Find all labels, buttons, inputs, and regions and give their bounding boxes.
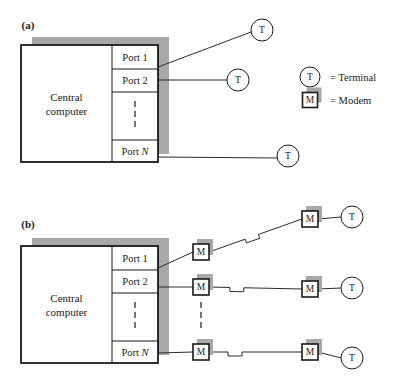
terminal-node: T bbox=[251, 19, 273, 41]
legend-item-label: = Modem bbox=[330, 95, 371, 106]
modem-glyph: M bbox=[197, 247, 206, 257]
panel-label-a: (a) bbox=[22, 19, 35, 32]
port-label: Port 2 bbox=[122, 75, 147, 86]
port-label: Port 2 bbox=[122, 276, 147, 287]
modem-glyph: M bbox=[306, 214, 315, 224]
modem-glyph: M bbox=[306, 347, 315, 357]
panel-label-b: (b) bbox=[21, 218, 35, 231]
terminal-glyph: T bbox=[285, 151, 291, 161]
computer-title-line2: computer bbox=[46, 105, 88, 117]
port-label: Port 1 bbox=[122, 52, 147, 63]
computer-title-line2: computer bbox=[46, 306, 88, 318]
legend-terminal-symbol: T bbox=[300, 67, 320, 87]
terminal-node: T bbox=[341, 206, 363, 228]
terminal-glyph: T bbox=[259, 25, 265, 35]
port-slot: Port 1 bbox=[122, 253, 147, 264]
computer-title-line1: Central bbox=[50, 91, 82, 103]
computer-title-line1: Central bbox=[50, 292, 82, 304]
modem-glyph: M bbox=[306, 284, 315, 294]
terminal-glyph: T bbox=[349, 212, 355, 222]
terminal-node: T bbox=[341, 277, 363, 299]
terminal-glyph: T bbox=[349, 283, 355, 293]
network-topology-figure: (a)CentralcomputerPort 1Port 2Port NTTT(… bbox=[0, 0, 409, 380]
terminal-glyph: T bbox=[349, 353, 355, 363]
terminal-node: T bbox=[227, 69, 249, 91]
terminal-glyph: T bbox=[307, 72, 313, 82]
terminal-node: T bbox=[341, 347, 363, 369]
modem-glyph: M bbox=[306, 95, 315, 105]
port-label: Port N bbox=[121, 146, 149, 157]
modem-glyph: M bbox=[197, 282, 206, 292]
terminal-glyph: T bbox=[235, 75, 241, 85]
terminal-node: T bbox=[277, 145, 299, 167]
legend-item-label: = Terminal bbox=[330, 72, 376, 83]
central-computer-unit-b: CentralcomputerPort 1Port 2Port N bbox=[21, 238, 169, 363]
port-label: Port 1 bbox=[122, 253, 147, 264]
central-computer-unit-a: CentralcomputerPort 1Port 2Port N bbox=[21, 37, 169, 162]
modem-glyph: M bbox=[197, 347, 206, 357]
port-slot: Port 1 bbox=[122, 52, 147, 63]
port-label: Port N bbox=[121, 347, 149, 358]
